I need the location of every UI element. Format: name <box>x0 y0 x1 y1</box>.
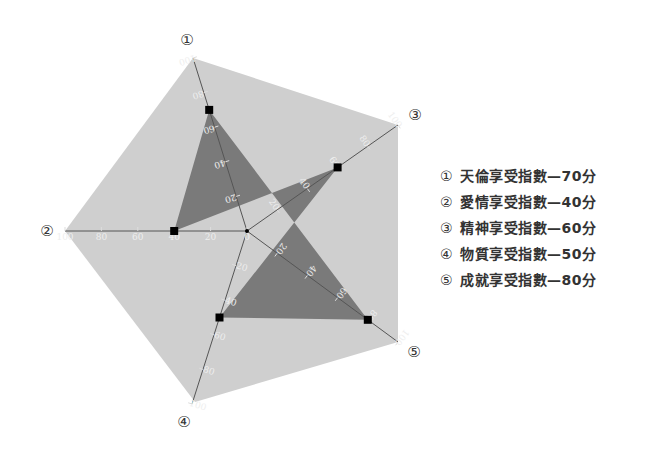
tick-label: 0 <box>244 232 250 242</box>
legend-marker: ④ <box>440 241 460 267</box>
tick-label: 20 <box>205 232 217 242</box>
legend-item: ④物質享受指數—50分 <box>440 241 596 267</box>
legend-marker: ② <box>440 189 460 215</box>
legend: ①天倫享受指數—70分 ②愛情享受指數—40分 ③精神享受指數—60分 ④物質享… <box>440 163 596 293</box>
legend-label: 精神享受指數—60分 <box>460 220 596 236</box>
axis-marker-label: ① <box>180 31 193 49</box>
legend-marker: ⑤ <box>440 267 460 293</box>
tick-label: 100 <box>56 232 73 242</box>
legend-label: 天倫享受指數—70分 <box>460 168 596 184</box>
legend-item: ②愛情享受指數—40分 <box>440 189 596 215</box>
legend-label: 物質享受指數—50分 <box>460 246 596 262</box>
data-point-marker <box>205 106 213 114</box>
axis-marker-label: ⑤ <box>407 343 420 361</box>
legend-label: 愛情享受指數—40分 <box>460 194 596 210</box>
outer-range-area <box>65 58 398 402</box>
legend-item: ①天倫享受指數—70分 <box>440 163 596 189</box>
legend-item: ③精神享受指數—60分 <box>440 215 596 241</box>
tick-label: 60 <box>132 232 144 242</box>
tick-label: 100 <box>188 398 208 413</box>
axis-marker-label: ② <box>40 222 53 240</box>
data-point-marker <box>364 316 372 324</box>
legend-marker: ① <box>440 163 460 189</box>
legend-label: 成就享受指數—80分 <box>460 272 596 288</box>
legend-marker: ③ <box>440 215 460 241</box>
axis-marker-label: ③ <box>408 106 421 124</box>
center-point <box>245 229 249 233</box>
tick-label: 80 <box>96 232 108 242</box>
data-point-marker <box>170 227 178 235</box>
data-point-marker <box>334 163 342 171</box>
axis-marker-label: ④ <box>177 413 190 431</box>
data-point-marker <box>216 314 224 322</box>
legend-item: ⑤成就享受指數—80分 <box>440 267 596 293</box>
